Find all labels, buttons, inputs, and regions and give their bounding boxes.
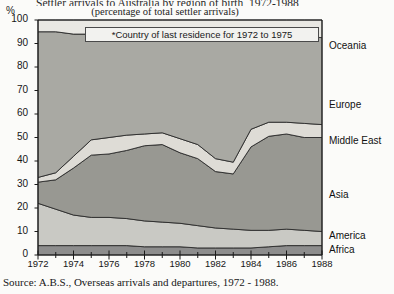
y-axis-tick-label: 30 — [2, 179, 28, 189]
y-axis-tick-label: 40 — [2, 155, 28, 165]
y-axis-tick-label: 90 — [2, 38, 28, 48]
y-axis-tick-labels: 0102030405060708090100 — [2, 0, 28, 294]
series-label-middle-east: Middle East — [329, 136, 381, 146]
series-label-africa: Africa — [329, 245, 355, 255]
y-axis-tick-label: 70 — [2, 85, 28, 95]
x-axis-tick-label: 1972 — [21, 258, 55, 269]
x-axis-tick-label: 1980 — [163, 258, 197, 269]
callout-note: *Country of last residence for 1972 to 1… — [85, 27, 319, 42]
series-label-asia: Asia — [329, 190, 348, 200]
x-axis-tick-label: 1978 — [128, 258, 162, 269]
x-axis-tick-label: 1984 — [234, 258, 268, 269]
x-axis-tick-label: 1988 — [305, 258, 339, 269]
series-label-america: America — [329, 231, 366, 241]
y-axis-tick-label: 60 — [2, 108, 28, 118]
y-axis-tick-label: 50 — [2, 132, 28, 142]
callout-note-text: *Country of last residence for 1972 to 1… — [112, 29, 293, 40]
x-axis-tick-label: 1982 — [199, 258, 233, 269]
x-axis-tick-label: 1974 — [57, 258, 91, 269]
source-note: Source: A.B.S., Overseas arrivals and de… — [3, 276, 279, 288]
y-axis-tick-label: 20 — [2, 202, 28, 212]
y-axis-tick-label: 10 — [2, 226, 28, 236]
area-series-group — [38, 20, 322, 255]
series-label-europe: Europe — [329, 100, 361, 110]
series-label-oceania: Oceania — [329, 41, 366, 51]
y-axis-tick-label: 80 — [2, 61, 28, 71]
x-axis-tick-label: 1976 — [92, 258, 126, 269]
x-axis-tick-label: 1986 — [270, 258, 304, 269]
y-axis-tick-label: 100 — [2, 14, 28, 24]
